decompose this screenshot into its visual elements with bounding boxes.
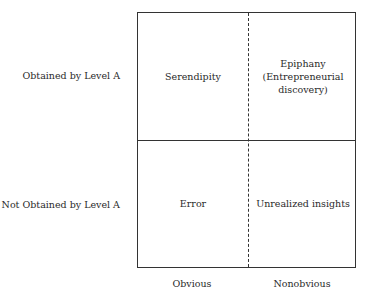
cell-epiphany: Epiphany (Entrepreneurial discovery): [248, 13, 358, 140]
cell-unrealized-insights-label: Unrealized insights: [256, 197, 350, 210]
column-label-nonobvious: Nonobvious: [247, 278, 357, 289]
cell-error: Error: [138, 140, 248, 267]
row-label-obtained: Obtained by Level A: [22, 70, 120, 81]
quadrant-matrix: Serendipity Epiphany (Entrepreneurial di…: [137, 12, 356, 268]
row-label-not-obtained: Not Obtained by Level A: [2, 199, 120, 210]
cell-serendipity-label: Serendipity: [165, 70, 221, 83]
cell-epiphany-line3: discovery): [262, 83, 343, 96]
cell-error-label: Error: [180, 197, 206, 210]
cell-unrealized-insights: Unrealized insights: [248, 140, 358, 267]
cell-epiphany-line1: Epiphany: [262, 57, 343, 70]
column-label-obvious: Obvious: [137, 278, 247, 289]
cell-epiphany-line2: (Entrepreneurial: [262, 70, 343, 83]
cell-serendipity: Serendipity: [138, 13, 248, 140]
